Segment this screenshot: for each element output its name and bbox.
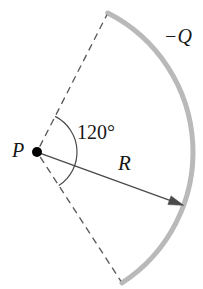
charged-arc-path	[108, 13, 193, 283]
radius-arrow-head	[168, 196, 184, 205]
radius-label: R	[118, 153, 131, 174]
charge-label: −Q	[164, 26, 192, 46]
point-p-dot	[32, 147, 42, 157]
figure-container: P 120° R −Q	[0, 0, 203, 289]
dashed-radius-lower	[40, 157, 121, 281]
angle-value-label: 120°	[77, 122, 115, 142]
point-p-label: P	[12, 140, 24, 160]
radius-arrow-line	[40, 153, 176, 203]
angle-marker-arc	[55, 116, 77, 185]
